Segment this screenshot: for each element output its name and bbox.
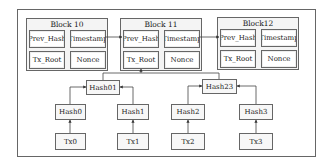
block-10: Block 10 Prev_Hash Timestamp Tx_Root Non…: [26, 18, 108, 71]
hash23-node: Hash23: [202, 79, 237, 94]
nonce-field: Nonce: [164, 51, 200, 69]
prev-hash-field: Prev_Hash: [29, 30, 65, 48]
tx-root-field: Tx_Root: [29, 51, 65, 69]
block-title: Block 10: [27, 20, 107, 29]
nonce-field: Nonce: [70, 51, 106, 69]
tx3-node: Tx3: [239, 133, 273, 150]
hash01-node: Hash01: [86, 80, 120, 95]
nonce-field: Nonce: [261, 50, 297, 68]
tx2-node: Tx2: [171, 133, 205, 150]
tx1-node: Tx1: [117, 133, 149, 150]
prev-hash-field: Prev_Hash: [123, 30, 159, 48]
hash0-node: Hash0: [55, 104, 86, 120]
hash3-node: Hash3: [239, 104, 273, 120]
tx-root-field: Tx_Root: [123, 51, 159, 69]
hash1-node: Hash1: [117, 104, 149, 120]
timestamp-field: Timestamp: [261, 29, 297, 47]
timestamp-field: Timestamp: [70, 30, 106, 48]
block-11: Block 11 Prev_Hash Timestamp Tx_Root Non…: [120, 18, 202, 71]
block-title: Block 11: [121, 20, 201, 29]
block-title: Block12: [218, 19, 298, 28]
hash2-node: Hash2: [171, 104, 205, 120]
tx-root-field: Tx_Root: [220, 50, 256, 68]
block-12: Block12 Prev_Hash Timestamp Tx_Root Nonc…: [217, 17, 299, 70]
prev-hash-field: Prev_Hash: [220, 29, 256, 47]
tx0-node: Tx0: [55, 133, 86, 150]
timestamp-field: Timestamp: [164, 30, 200, 48]
